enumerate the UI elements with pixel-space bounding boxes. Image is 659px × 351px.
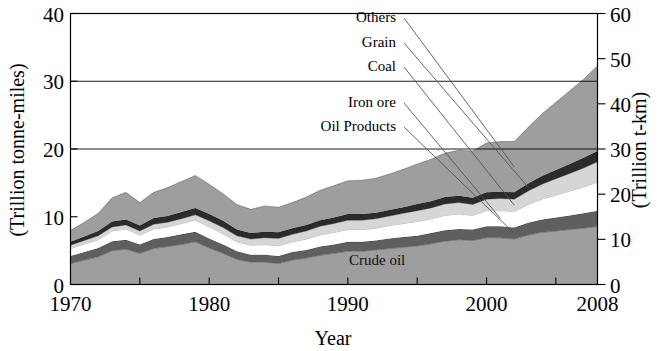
- y-left-tick-label-20: 20: [43, 138, 64, 162]
- stacked-area-chart: 19701980199020002008 010203040 010203040…: [0, 0, 659, 351]
- label-others: Others: [356, 9, 396, 25]
- y-right-tick-label-10: 10: [610, 228, 631, 252]
- x-axis-title: Year: [315, 327, 352, 349]
- y-axis-right-title: (Trillion t-km): [628, 92, 651, 209]
- label-coal: Coal: [368, 58, 396, 74]
- chart-figure: 19701980199020002008 010203040 010203040…: [0, 0, 659, 351]
- y-right-tick-label-60: 60: [610, 3, 631, 27]
- leader-others: [404, 18, 514, 167]
- x-tick-label-1990: 1990: [327, 292, 369, 316]
- x-axis-tick-labels: 19701980199020002008: [50, 292, 619, 316]
- x-tick-label-1980: 1980: [188, 292, 230, 316]
- y-right-tick-label-0: 0: [610, 274, 621, 298]
- y-axis-left-tick-labels: 010203040: [43, 3, 64, 298]
- series-areas: [71, 66, 598, 285]
- y-left-tick-label-0: 0: [54, 274, 65, 298]
- x-tick-label-2000: 2000: [466, 292, 508, 316]
- label-oil-products: Oil Products: [321, 118, 397, 134]
- label-iron-ore: Iron ore: [348, 94, 396, 110]
- y-axis-left-title: (Trillion tonne-miles): [6, 63, 29, 236]
- y-left-tick-label-40: 40: [43, 3, 64, 27]
- label-crude-oil: Crude oil: [349, 252, 405, 268]
- y-left-tick-label-30: 30: [43, 70, 64, 94]
- y-axis-right-ticks: [598, 14, 606, 285]
- y-left-tick-label-10: 10: [43, 206, 64, 230]
- y-right-tick-label-50: 50: [610, 48, 631, 72]
- label-grain: Grain: [362, 34, 397, 50]
